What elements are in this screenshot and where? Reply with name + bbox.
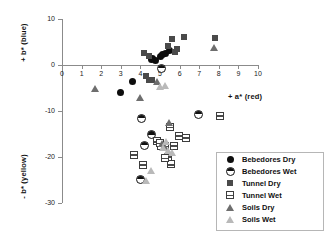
y-axis-tick	[58, 203, 62, 204]
legend-item-label: Bebedores Wet	[242, 167, 296, 176]
data-point	[175, 132, 183, 140]
chart-legend: Bebedores DryBebedores WetTunnel DryTunn…	[216, 152, 324, 231]
y-axis-tick-label: -10	[29, 107, 55, 114]
data-point	[142, 177, 150, 184]
data-point	[210, 44, 218, 51]
data-point	[181, 34, 187, 40]
y-axis-tick-label: -20	[29, 153, 55, 160]
legend-item-label: Soils Wet	[242, 215, 276, 224]
tri-dry-icon	[225, 202, 235, 212]
data-point	[140, 141, 149, 150]
data-point	[169, 36, 175, 42]
circle-wet-icon	[225, 166, 235, 176]
data-point	[172, 49, 178, 55]
legend-item-circle-wet: Bebedores Wet	[217, 165, 323, 177]
y-axis-label-bottom: - b* (yellow)	[19, 140, 28, 214]
data-point	[168, 149, 176, 156]
data-point	[137, 114, 146, 123]
circle-dry-icon	[225, 154, 235, 164]
data-point	[165, 119, 173, 126]
data-point	[212, 35, 218, 41]
x-axis-tick	[258, 65, 259, 69]
legend-item-label: Tunnel Wet	[242, 191, 282, 200]
y-axis-tick-label: 0	[29, 61, 55, 68]
square-dry-icon	[225, 178, 235, 188]
data-point	[216, 112, 224, 120]
legend-item-tri-dry: Soils Dry	[217, 201, 323, 213]
legend-item-label: Soils Dry	[242, 203, 275, 212]
legend-item-circle-dry: Bebedores Dry	[217, 153, 323, 165]
data-point	[182, 134, 190, 142]
y-axis-label-top: + b* (blue)	[19, 8, 28, 78]
data-point	[147, 167, 155, 174]
legend-item-square-wet: Tunnel Wet	[217, 189, 323, 201]
tri-wet-icon	[225, 214, 235, 224]
data-point	[161, 82, 169, 89]
data-point	[139, 161, 147, 169]
data-point	[157, 64, 166, 73]
data-point	[91, 85, 99, 92]
data-point	[159, 144, 167, 151]
legend-item-tri-wet: Soils Wet	[217, 213, 323, 225]
data-point	[194, 110, 203, 119]
data-point	[130, 151, 138, 159]
data-point	[146, 53, 152, 59]
legend-item-label: Bebedores Dry	[242, 155, 295, 164]
y-axis-tick-label: 10	[29, 15, 55, 22]
scatter-chart: + b* (blue) - b* (yellow) + a* (red) 100…	[0, 0, 329, 237]
legend-item-label: Tunnel Dry	[242, 179, 281, 188]
legend-item-square-dry: Tunnel Dry	[217, 177, 323, 189]
data-point	[129, 78, 136, 85]
data-point	[117, 89, 124, 96]
data-point	[165, 43, 171, 49]
data-point	[136, 94, 144, 101]
square-wet-icon	[225, 190, 235, 200]
y-axis-tick-label: -30	[29, 199, 55, 206]
